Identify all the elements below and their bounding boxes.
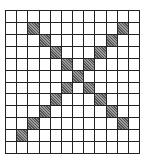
grid-cell [6, 35, 17, 47]
grid-cell [107, 94, 118, 106]
grid-cell [118, 130, 129, 142]
grid-cell [118, 47, 129, 59]
grid-cell [17, 59, 28, 71]
grid-cell [62, 35, 73, 47]
grid-cell [95, 59, 106, 71]
grid-cell [95, 23, 106, 35]
grid-cell [17, 47, 28, 59]
grid-cell [6, 71, 17, 83]
grid-cell [28, 47, 39, 59]
grid-cell [118, 35, 129, 47]
grid-cell [95, 118, 106, 130]
grid-cell-filled [17, 130, 28, 142]
grid-cell [51, 118, 62, 130]
grid-cell [129, 106, 140, 118]
grid-cell [40, 118, 51, 130]
grid-cell [95, 142, 106, 154]
grid-cell [107, 47, 118, 59]
grid-cell [73, 11, 84, 23]
grid-cell [118, 71, 129, 83]
grid-cell-filled [118, 118, 129, 130]
grid-cell-filled [40, 106, 51, 118]
grid-cell [95, 83, 106, 95]
grid-cell [62, 106, 73, 118]
grid-cell-filled [62, 83, 73, 95]
grid-cell [73, 35, 84, 47]
grid-cell [73, 47, 84, 59]
grid-cell-filled [118, 23, 129, 35]
grid-cell [40, 59, 51, 71]
grid-cell [84, 11, 95, 23]
grid-cell [28, 59, 39, 71]
grid-cell [107, 71, 118, 83]
grid-cell [118, 83, 129, 95]
grid-cell [51, 71, 62, 83]
grid-cell [6, 94, 17, 106]
grid-cell [40, 94, 51, 106]
grid-cell [6, 23, 17, 35]
grid-cell [62, 47, 73, 59]
grid-cell [28, 71, 39, 83]
grid-cell [107, 142, 118, 154]
grid-cell [17, 118, 28, 130]
grid-cell [40, 83, 51, 95]
grid-cell-filled [95, 47, 106, 59]
grid-cell-filled [40, 35, 51, 47]
grid-cell-filled [73, 71, 84, 83]
grid-cell [129, 142, 140, 154]
grid-cell [62, 23, 73, 35]
grid-cell [129, 23, 140, 35]
grid-cell [84, 23, 95, 35]
grid-cell [17, 106, 28, 118]
grid-cell [28, 11, 39, 23]
grid-cell [51, 35, 62, 47]
grid-cell [95, 71, 106, 83]
grid-cell [84, 71, 95, 83]
grid-cell [17, 142, 28, 154]
grid-cell [73, 118, 84, 130]
grid-cell [129, 130, 140, 142]
grid-cell [17, 35, 28, 47]
grid-cell [6, 47, 17, 59]
grid-cell [6, 142, 17, 154]
grid-cell [129, 118, 140, 130]
grid-cell [51, 59, 62, 71]
grid-cell [95, 106, 106, 118]
grid-cell [107, 11, 118, 23]
grid-cell [28, 130, 39, 142]
grid-cell-filled [51, 47, 62, 59]
grid-cell [73, 142, 84, 154]
grid-cell [51, 11, 62, 23]
grid-cell-filled [28, 23, 39, 35]
grid-cell [6, 59, 17, 71]
grid-cell [95, 11, 106, 23]
grid-cell [129, 83, 140, 95]
grid-cell [118, 142, 129, 154]
grid-cell [6, 118, 17, 130]
grid-cell [6, 11, 17, 23]
grid-cell [84, 47, 95, 59]
grid-cell [40, 130, 51, 142]
grid-cell-filled [62, 59, 73, 71]
grid-cell [84, 106, 95, 118]
grid-cell [129, 59, 140, 71]
grid-cell [107, 130, 118, 142]
grid-cell [84, 94, 95, 106]
grid-cell [84, 142, 95, 154]
grid-cell [118, 11, 129, 23]
grid-cell-filled [84, 59, 95, 71]
pixel-grid [5, 10, 140, 154]
grid-cell [129, 47, 140, 59]
grid-cell [6, 106, 17, 118]
grid-cell [6, 130, 17, 142]
grid-cell [129, 11, 140, 23]
grid-cell [28, 142, 39, 154]
grid-cell [129, 94, 140, 106]
grid-cell-filled [107, 106, 118, 118]
grid-cell [107, 118, 118, 130]
grid-cell [28, 106, 39, 118]
grid-cell-filled [28, 118, 39, 130]
grid-cell [40, 71, 51, 83]
grid-cell [73, 94, 84, 106]
grid-cell-filled [95, 94, 106, 106]
